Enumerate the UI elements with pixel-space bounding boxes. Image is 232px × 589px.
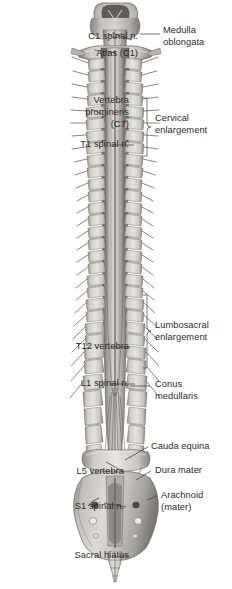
label-arachnoid-mater-line2: (mater) <box>161 501 203 513</box>
label-sacral-hiatus: Sacral hiatus <box>75 549 129 561</box>
label-l1-spinal-n: L1 spinal n. <box>81 377 129 389</box>
label-conus-medullaris-line1: Conus <box>155 378 198 390</box>
label-lumbosacral-enlargement-line2: enlargement <box>155 331 209 343</box>
sacrum <box>74 472 159 560</box>
label-cauda-equina-line1: Cauda equina <box>151 440 210 452</box>
label-cervical-enlargement-line1: Cervical <box>155 112 207 124</box>
label-atlas-c1: Atlas (C1) <box>96 47 138 59</box>
label-t1-spinal-n-line1: T1 spinal n. <box>80 138 129 150</box>
label-c1-spinal-n: C1 spinal n. <box>88 30 138 42</box>
label-t12-vertebra: T12 vertebra <box>76 340 129 352</box>
label-l1-spinal-n-line1: L1 spinal n. <box>81 377 129 389</box>
label-t12-vertebra-line1: T12 vertebra <box>76 340 129 352</box>
label-vertebra-prominens-c7: Vertebra prominens (C7) <box>85 94 129 131</box>
label-conus-medullaris-line2: medullaris <box>155 390 198 402</box>
label-l5-vertebra-line1: L5 vertebra <box>76 465 124 477</box>
label-conus-medullaris: Conus medullaris <box>155 378 198 402</box>
label-t1-spinal-n: T1 spinal n. <box>80 138 129 150</box>
label-s1-spinal-n: S1 spinal n. <box>75 500 124 512</box>
spinal-column-figure: C1 spinal n. Atlas (C1) Vertebra promine… <box>0 0 232 589</box>
label-lumbosacral-enlargement: Lumbosacral enlargement <box>155 319 209 343</box>
label-arachnoid-mater-line1: Arachnoid <box>161 489 203 501</box>
label-l5-vertebra: L5 vertebra <box>76 465 124 477</box>
label-s1-spinal-n-line1: S1 spinal n. <box>75 500 124 512</box>
label-atlas-c1-line1: Atlas (C1) <box>96 47 138 59</box>
label-vertebra-prominens-line3: (C7) <box>85 118 129 130</box>
label-cervical-enlargement-line2: enlargement <box>155 124 207 136</box>
label-vertebra-prominens-line2: prominens <box>85 106 129 118</box>
label-sacral-hiatus-line1: Sacral hiatus <box>75 549 129 561</box>
label-cauda-equina: Cauda equina <box>151 440 210 452</box>
label-c1-spinal-n-line1: C1 spinal n. <box>88 30 138 42</box>
label-cervical-enlargement: Cervical enlargement <box>155 112 207 136</box>
label-medulla-oblongata: Medulla oblongata <box>163 24 204 48</box>
label-arachnoid-mater: Arachnoid (mater) <box>161 489 203 513</box>
label-dura-mater-line1: Dura mater <box>155 464 202 476</box>
label-dura-mater: Dura mater <box>155 464 202 476</box>
label-vertebra-prominens-line1: Vertebra <box>85 94 129 106</box>
label-lumbosacral-enlargement-line1: Lumbosacral <box>155 319 209 331</box>
label-medulla-oblongata-line1: Medulla <box>163 24 204 36</box>
label-medulla-oblongata-line2: oblongata <box>163 36 204 48</box>
